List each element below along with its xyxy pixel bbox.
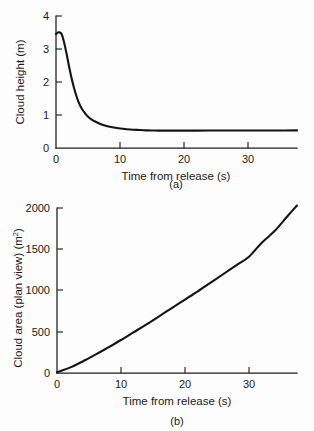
chart-a-x-tick-10: 10 (114, 153, 126, 165)
chart-b-y-tick-1000: 1000 (26, 284, 50, 296)
chart-a-x-tick-20: 20 (178, 153, 190, 165)
chart-b-y-axis-title: Cloud area (plan view) (m2) (11, 228, 24, 368)
chart-a-caption-svg: (a) (0, 176, 314, 192)
chart-a-y-tick-3: 3 (43, 43, 49, 55)
figure-container: Cloud height (m) 4 3 2 1 0 0 10 20 30 (0, 0, 314, 431)
chart-a-y-tick-1: 1 (43, 109, 49, 121)
chart-b-y-axis-title-tail: ) (12, 228, 24, 232)
chart-b-y-tick-0: 0 (44, 367, 50, 379)
chart-b-caption: (b) (170, 415, 183, 427)
chart-a-y-tick-2: 2 (43, 76, 49, 88)
chart-a-x-tick-0: 0 (53, 153, 59, 165)
chart-b-data-curve (57, 206, 297, 373)
chart-b-y-axis-title-main: Cloud area (plan view) (m (12, 236, 24, 368)
chart-b-x-axis-title: Time from release (s) (123, 395, 232, 407)
chart-panel-b: Cloud area (plan view) (m2) 2000 1500 10… (0, 196, 314, 431)
chart-a-x-tick-30: 30 (242, 153, 254, 165)
chart-a-data-curve (56, 32, 297, 130)
chart-b-y-tick-500: 500 (32, 326, 50, 338)
chart-b-svg: Cloud area (plan view) (m2) 2000 1500 10… (0, 196, 314, 431)
chart-b-x-tick-0: 0 (54, 378, 60, 390)
chart-b-y-tick-1500: 1500 (26, 243, 50, 255)
chart-b-x-tick-30: 30 (243, 378, 255, 390)
chart-b-y-tick-2000: 2000 (26, 202, 50, 214)
chart-a-caption: (a) (169, 178, 182, 190)
chart-b-x-tick-10: 10 (115, 378, 127, 390)
chart-b-x-tick-20: 20 (179, 378, 191, 390)
chart-a-svg: Cloud height (m) 4 3 2 1 0 0 10 20 30 (0, 0, 314, 196)
chart-panel-a: Cloud height (m) 4 3 2 1 0 0 10 20 30 (0, 0, 314, 196)
chart-a-y-axis-title: Cloud height (m) (14, 39, 26, 124)
chart-a-y-tick-4: 4 (43, 10, 49, 22)
chart-a-y-tick-0: 0 (43, 142, 49, 154)
